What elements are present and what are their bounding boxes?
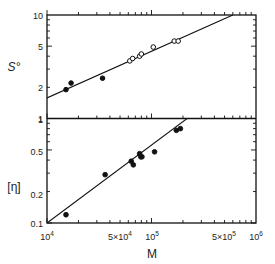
x-axis-title: M: [147, 247, 157, 261]
filled-data-point: [69, 81, 74, 86]
y-tick-label: 5: [38, 42, 43, 52]
x-tick-label: 5×105: [212, 230, 236, 242]
filled-data-point: [100, 76, 105, 81]
open-data-point: [139, 52, 144, 57]
x-tick-label: 5×104: [108, 230, 132, 242]
open-data-point: [151, 45, 156, 50]
filled-data-point: [64, 87, 69, 92]
y-axis-title-upper: S°: [8, 60, 21, 74]
open-data-point: [176, 39, 181, 44]
x-tick-label: 105: [145, 230, 159, 242]
y-tick-label: 0.2: [30, 190, 43, 200]
y-tick-label: 0.1: [30, 219, 43, 229]
filled-data-point: [140, 154, 145, 159]
chart-canvas: 1052110.50.20.11045×1041055×105106S°[η]M: [0, 0, 275, 264]
y-axis-title-lower: [η]: [7, 180, 20, 194]
filled-data-point: [64, 212, 69, 217]
y-tick-label: 1: [38, 115, 43, 125]
x-tick-label: 106: [249, 230, 263, 242]
fit-line-lower: [47, 67, 256, 223]
axis-ticks: [47, 10, 256, 223]
filled-data-point: [131, 162, 136, 167]
filled-data-point: [152, 149, 157, 154]
x-tick-label: 104: [40, 230, 54, 242]
data-points: [64, 39, 183, 217]
y-tick-label: 2: [38, 83, 43, 93]
y-tick-label: 0.5: [30, 147, 43, 157]
open-data-point: [130, 56, 135, 61]
filled-data-point: [178, 126, 183, 131]
y-tick-label: 10: [33, 11, 43, 21]
filled-data-point: [103, 172, 108, 177]
